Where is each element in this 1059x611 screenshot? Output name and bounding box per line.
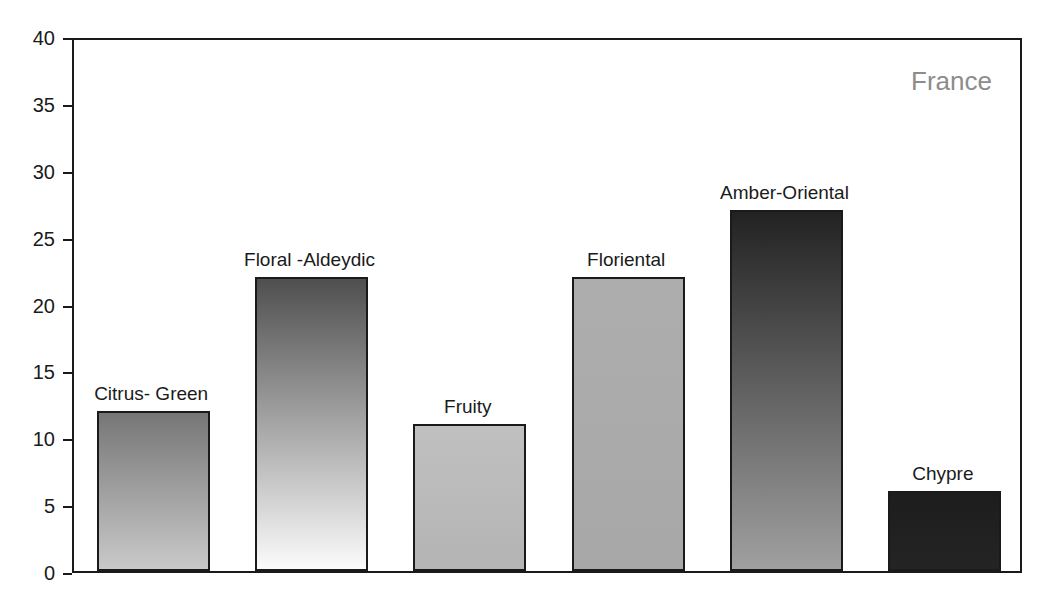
y-tick-mark bbox=[63, 172, 72, 174]
y-tick-mark bbox=[63, 38, 72, 40]
country-annotation: France bbox=[911, 66, 992, 97]
bar[interactable] bbox=[888, 491, 1001, 571]
bar[interactable] bbox=[413, 424, 526, 571]
y-tick-mark bbox=[63, 439, 72, 441]
y-tick-label: 20 bbox=[33, 292, 55, 320]
y-axis: 0510152025303540 bbox=[0, 0, 72, 611]
bar-label: Fruity bbox=[444, 396, 492, 418]
y-tick-label: 5 bbox=[44, 492, 55, 520]
y-tick-label: 0 bbox=[44, 559, 55, 587]
y-tick-label: 40 bbox=[33, 24, 55, 52]
y-tick-mark bbox=[63, 105, 72, 107]
y-tick-mark bbox=[63, 372, 72, 374]
y-tick-mark bbox=[63, 306, 72, 308]
bar[interactable] bbox=[97, 411, 210, 572]
bar[interactable] bbox=[730, 210, 843, 571]
y-tick-mark bbox=[63, 239, 72, 241]
y-tick-mark bbox=[63, 573, 72, 575]
bar[interactable] bbox=[255, 277, 368, 571]
bar-label: Chypre bbox=[912, 463, 973, 485]
bar-label: Floriental bbox=[587, 249, 665, 271]
y-tick-mark bbox=[63, 506, 72, 508]
y-tick-label: 15 bbox=[33, 358, 55, 386]
bar-label: Floral -Aldeydic bbox=[244, 249, 375, 271]
bar[interactable] bbox=[572, 277, 685, 571]
y-tick-label: 25 bbox=[33, 225, 55, 253]
y-tick-label: 10 bbox=[33, 425, 55, 453]
plot-area bbox=[72, 38, 1022, 573]
y-tick-label: 30 bbox=[33, 158, 55, 186]
bar-label: Citrus- Green bbox=[94, 383, 208, 405]
bar-label: Amber-Oriental bbox=[720, 182, 849, 204]
y-tick-label: 35 bbox=[33, 91, 55, 119]
bar-chart: 0510152025303540 France Citrus- GreenFlo… bbox=[0, 0, 1059, 611]
